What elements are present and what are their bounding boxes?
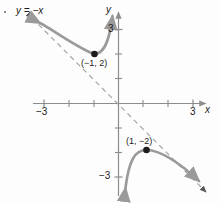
y-tick-label-pos3: 3 [108,24,114,34]
point-marker-upper [91,51,98,58]
x-tick-label-neg3: −3 [36,107,47,117]
y-tick-label-neg3: −3 [99,171,110,181]
graph-figure: y = −x y x −3 3 3 −3 (−1, 2) (1, −2) [0,0,219,203]
point-marker-lower [143,147,150,154]
asymptote-equation-label: y = −x [16,6,43,16]
x-axis-label: x [205,105,210,115]
curve-lower-branch [126,150,200,188]
x-axis [33,100,206,108]
point-label-lower: (1, −2) [126,137,152,146]
curve-upper-branch [40,16,113,54]
y-axis-label: y [106,5,111,15]
x-tick-label-pos3: 3 [190,107,196,117]
point-label-upper: (−1, 2) [81,59,107,68]
